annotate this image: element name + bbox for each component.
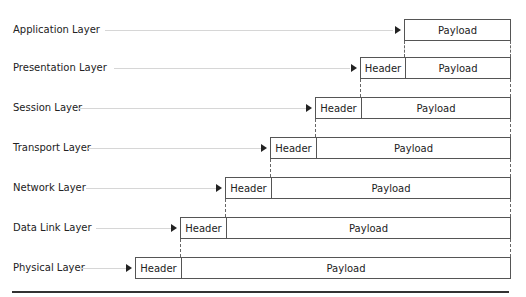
payload-segment: Payload [317, 138, 510, 158]
pdu-box-physical: Header Payload [135, 257, 511, 279]
arrow-right-icon [351, 64, 357, 72]
connector-line [88, 148, 261, 149]
payload-segment: Payload [405, 20, 510, 40]
dashed-guide [315, 119, 316, 137]
arrow-right-icon [171, 224, 177, 232]
arrow-right-icon [261, 144, 267, 152]
bottom-rule [12, 291, 509, 293]
pdu-box-transport: Header Payload [270, 137, 511, 159]
dashed-guide [180, 239, 181, 257]
pdu-box-application: Payload [404, 19, 511, 41]
dashed-guide [225, 199, 226, 217]
dashed-guide [510, 119, 511, 137]
payload-segment: Payload [227, 218, 510, 238]
layer-label-transport: Transport Layer [13, 142, 91, 154]
osi-encapsulation-diagram: Application Layer Payload Presentation L… [0, 0, 526, 297]
pdu-box-presentation: Header Payload [360, 57, 511, 79]
arrow-right-icon [126, 264, 132, 272]
header-segment: Header [361, 58, 406, 78]
layer-label-data-link: Data Link Layer [13, 222, 92, 234]
payload-segment: Payload [406, 58, 510, 78]
pdu-box-network: Header Payload [225, 177, 511, 199]
connector-line [114, 68, 350, 69]
pdu-box-data-link: Header Payload [180, 217, 511, 239]
arrow-right-icon [306, 104, 312, 112]
dashed-guide [404, 41, 405, 57]
dashed-guide [510, 79, 511, 97]
payload-segment: Payload [272, 178, 510, 198]
payload-segment: Payload [362, 98, 510, 118]
header-segment: Header [226, 178, 272, 198]
dashed-guide [510, 41, 511, 57]
dashed-guide [360, 79, 361, 97]
header-segment: Header [181, 218, 227, 238]
connector-line [80, 268, 126, 269]
layer-label-application: Application Layer [13, 24, 100, 36]
dashed-guide [510, 239, 511, 257]
payload-segment: Payload [182, 258, 510, 278]
layer-label-presentation: Presentation Layer [13, 62, 107, 74]
arrow-right-icon [395, 26, 401, 34]
connector-line [86, 188, 216, 189]
header-segment: Header [316, 98, 362, 118]
dashed-guide [270, 159, 271, 177]
header-segment: Header [271, 138, 317, 158]
layer-label-physical: Physical Layer [13, 262, 85, 274]
layer-label-network: Network Layer [13, 182, 86, 194]
arrow-right-icon [216, 184, 222, 192]
dashed-guide [510, 199, 511, 217]
layer-label-session: Session Layer [13, 102, 82, 114]
pdu-box-session: Header Payload [315, 97, 511, 119]
connector-line [96, 228, 171, 229]
header-segment: Header [136, 258, 182, 278]
connector-line [78, 108, 306, 109]
dashed-guide [510, 159, 511, 177]
connector-line [105, 30, 393, 31]
